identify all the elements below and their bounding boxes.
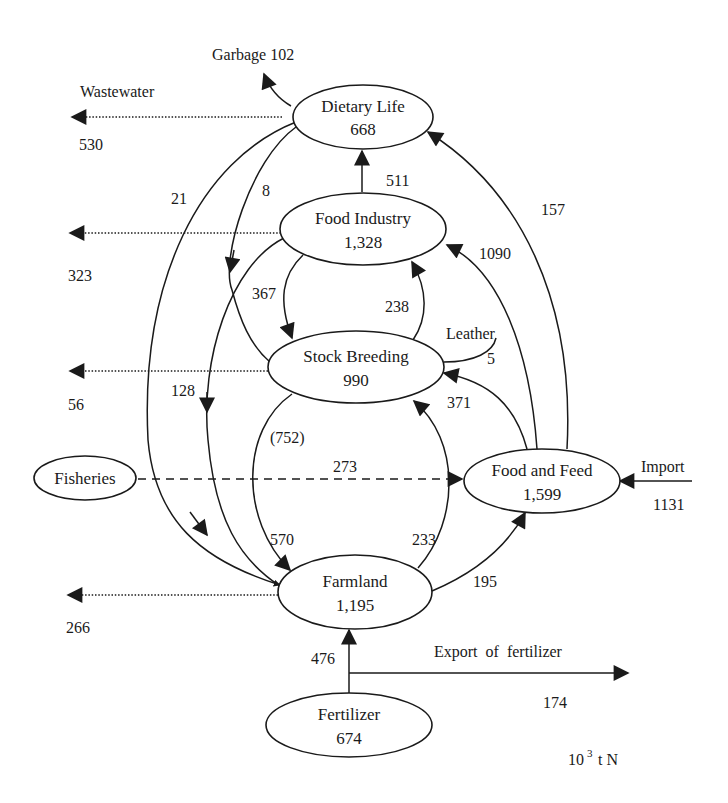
label-export-fertilizer-value: 174 xyxy=(543,694,567,711)
unit-suffix: t N xyxy=(598,751,618,768)
label-wastewater-foodindustry-value: 323 xyxy=(68,267,92,284)
node-stock-breeding-shape xyxy=(268,331,444,403)
node-stock-breeding-value: 990 xyxy=(343,371,369,390)
node-fertilizer: Fertilizer 674 xyxy=(266,693,432,757)
node-food-industry-shape xyxy=(280,193,446,265)
node-farmland: Farmland 1,195 xyxy=(278,555,432,629)
node-fertilizer-value: 674 xyxy=(336,729,362,748)
node-fertilizer-name: Fertilizer xyxy=(318,705,381,724)
node-food-and-feed-name: Food and Feed xyxy=(491,461,593,480)
label-dietary-stock-value: 8 xyxy=(262,182,270,199)
node-fisheries: Fisheries xyxy=(34,456,136,500)
node-food-industry: Food Industry 1,328 xyxy=(280,193,446,265)
label-dietary-farmland-value: 21 xyxy=(171,190,187,207)
label-leather-value: 5 xyxy=(487,350,495,367)
node-food-and-feed-value: 1,599 xyxy=(523,485,561,504)
nitrogen-flow-diagram: Dietary Life 668 Food Industry 1,328 Sto… xyxy=(0,0,728,803)
label-wastewater-stock-value: 56 xyxy=(68,396,84,413)
label-import: Import xyxy=(641,458,685,476)
node-food-industry-name: Food Industry xyxy=(315,209,411,228)
node-food-industry-value: 1,328 xyxy=(344,233,382,252)
flow-foodfeed-stockbreeding xyxy=(444,373,527,449)
label-export-fertilizer: Export of fertilizer xyxy=(434,643,563,661)
label-import-value: 1131 xyxy=(653,496,684,513)
unit-label: 10 3 t N xyxy=(568,747,618,768)
label-farmland-foodfeed-value: 195 xyxy=(473,573,497,590)
label-foodfeed-dietary-value: 157 xyxy=(541,201,565,218)
label-stock-farmland-value: 570 xyxy=(270,531,294,548)
flow-dietary-stockbreeding xyxy=(229,127,296,362)
label-farmland-stock-value: 233 xyxy=(412,531,436,548)
flow-stockbreeding-foodindustry xyxy=(412,262,424,340)
unit-exponent: 3 xyxy=(587,747,593,759)
label-fisheries-foodfeed-value: 273 xyxy=(333,458,357,475)
node-dietary-life-name: Dietary Life xyxy=(321,97,405,116)
label-foodfeed-stock-value: 371 xyxy=(447,394,471,411)
node-farmland-value: 1,195 xyxy=(336,596,374,615)
label-foodfeed-foodind-value: 1090 xyxy=(479,245,511,262)
label-foodind-dietary-value: 511 xyxy=(386,172,409,189)
node-dietary-life-value: 668 xyxy=(350,120,376,139)
label-garbage: Garbage 102 xyxy=(212,46,294,64)
label-fertilizer-farmland-value: 476 xyxy=(311,650,335,667)
node-farmland-shape xyxy=(278,555,432,629)
label-foodind-stock-value: 367 xyxy=(252,285,276,302)
label-foodind-farmland-value: 128 xyxy=(171,382,195,399)
node-fisheries-name: Fisheries xyxy=(54,469,115,488)
node-dietary-life: Dietary Life 668 xyxy=(293,85,433,149)
flow-foodindustry-stockbreeding xyxy=(284,255,303,338)
node-food-and-feed: Food and Feed 1,599 xyxy=(464,449,620,513)
label-stock-foodind-value: 238 xyxy=(385,298,409,315)
label-wastewater-dietary-value: 530 xyxy=(79,136,103,153)
unit-base: 10 xyxy=(568,751,584,768)
label-stock-farmland-note: (752) xyxy=(270,429,305,447)
node-stock-breeding-name: Stock Breeding xyxy=(303,347,409,366)
flow-dietary-farmland-arrow xyxy=(190,512,207,535)
node-farmland-name: Farmland xyxy=(322,572,388,591)
node-dietary-life-shape xyxy=(293,85,433,149)
node-stock-breeding: Stock Breeding 990 xyxy=(268,331,444,403)
label-wastewater: Wastewater xyxy=(80,83,155,100)
label-wastewater-farmland-value: 266 xyxy=(66,619,90,636)
label-leather: Leather xyxy=(446,325,496,342)
flow-dietary-garbage xyxy=(264,74,291,106)
